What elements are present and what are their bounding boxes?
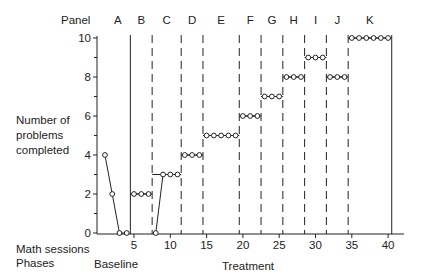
panel-series-c (152, 172, 181, 235)
panel-labels: ABCDEFGHIJK (114, 14, 374, 26)
data-point (335, 75, 340, 80)
data-point (357, 36, 362, 41)
data-point (306, 55, 311, 60)
x-tick-label: 10 (164, 239, 177, 251)
panel-series-a (103, 153, 130, 236)
data-point (277, 94, 282, 99)
panel-series-f (239, 114, 261, 119)
data-point (190, 153, 195, 158)
panel-series-h (283, 75, 305, 80)
data-point (117, 231, 122, 236)
data-point (386, 36, 391, 41)
data-point (168, 172, 173, 177)
x-tick-label: 35 (345, 239, 358, 251)
data-point (371, 36, 376, 41)
panel-label-a: A (114, 14, 122, 26)
changing-criterion-chart: 0246810510152025303540 ABCDEFGHIJK (0, 0, 428, 274)
data-point (262, 94, 267, 99)
panel-label-k: K (366, 14, 374, 26)
x-tick-label: 40 (382, 239, 395, 251)
y-tick-label: 6 (85, 110, 91, 122)
panel-label-i: I (314, 14, 317, 26)
panel-label-g: G (267, 14, 276, 26)
data-point (328, 75, 333, 80)
data-point (233, 133, 238, 138)
data-line (156, 175, 178, 234)
data-point (270, 94, 275, 99)
data-point (364, 36, 369, 41)
panel-series-b (130, 192, 152, 197)
panel-series-k (348, 36, 392, 41)
axes: 0246810510152025303540 (78, 32, 404, 251)
data-point (320, 55, 325, 60)
panel-series-e (203, 133, 239, 138)
data-point (313, 55, 318, 60)
data-point (226, 133, 231, 138)
panel-series-j (326, 75, 348, 80)
y-tick-label: 8 (85, 71, 91, 83)
data-point (211, 133, 216, 138)
panel-label-h: H (290, 14, 298, 26)
x-tick-label: 15 (200, 239, 213, 251)
data-point (110, 192, 115, 197)
data-point (153, 231, 158, 236)
panel-series-g (261, 94, 283, 99)
panel-series-i (305, 55, 327, 60)
panel-label-e: E (217, 14, 225, 26)
y-tick-label: 10 (78, 32, 91, 44)
data-point (204, 133, 209, 138)
data-point (197, 153, 202, 158)
data-point (175, 172, 180, 177)
y-tick-label: 0 (85, 227, 91, 239)
panel-label-f: F (247, 14, 254, 26)
phase-change-lines (130, 35, 391, 234)
data-point (132, 192, 137, 197)
data-point (299, 75, 304, 80)
panel-label-j: J (334, 14, 340, 26)
data-point (124, 231, 129, 236)
data-point (291, 75, 296, 80)
panel-series-d (181, 153, 203, 158)
data-point (219, 133, 224, 138)
data-point (161, 172, 166, 177)
data-line (105, 155, 127, 233)
x-tick-label: 30 (309, 239, 322, 251)
y-tick-label: 2 (85, 188, 91, 200)
panel-label-d: D (188, 14, 196, 26)
data-point (255, 114, 260, 119)
data-point (103, 153, 108, 158)
panel-label-b: B (137, 14, 145, 26)
x-tick-label: 25 (273, 239, 286, 251)
data-point (349, 36, 354, 41)
x-tick-label: 20 (237, 239, 250, 251)
data-point (342, 75, 347, 80)
data-point (284, 75, 289, 80)
panel-label-c: C (163, 14, 171, 26)
data-point (241, 114, 246, 119)
y-tick-label: 4 (85, 149, 92, 161)
data-point (139, 192, 144, 197)
x-tick-label: 5 (131, 239, 137, 251)
data-point (248, 114, 253, 119)
data-point (146, 192, 151, 197)
data-point (182, 153, 187, 158)
data-point (378, 36, 383, 41)
